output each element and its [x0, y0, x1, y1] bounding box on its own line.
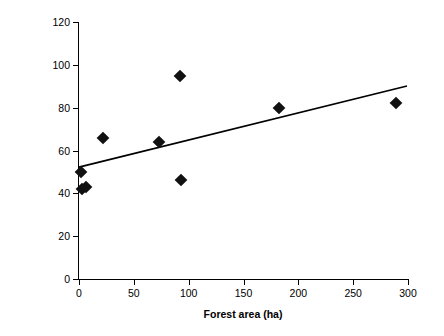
y-axis-tick-label: 100 [52, 59, 70, 71]
x-axis-tick [408, 279, 409, 285]
y-axis-tick [73, 22, 79, 23]
x-axis-tick [298, 279, 299, 285]
x-axis-tick-label: 0 [76, 287, 82, 299]
x-axis-tick-label: 100 [180, 287, 198, 299]
y-axis-tick [73, 65, 79, 66]
x-axis-tick-label: 250 [344, 287, 362, 299]
y-axis-tick [73, 193, 79, 194]
y-axis-tick [73, 236, 79, 237]
scatter-chart: Species richness of woody plant feeding … [0, 0, 444, 336]
x-axis-tick [79, 279, 80, 285]
y-axis-tick-label: 40 [58, 187, 70, 199]
x-axis-tick-label: 50 [128, 287, 140, 299]
x-axis-title: Forest area (ha) [78, 308, 408, 320]
trend-line [79, 22, 408, 279]
x-axis-tick-label: 300 [399, 287, 417, 299]
y-axis-tick [73, 108, 79, 109]
x-axis-tick [353, 279, 354, 285]
x-axis-tick-label: 200 [290, 287, 308, 299]
plot-area: 020406080100120050100150200250300 [78, 22, 408, 280]
x-axis-tick [244, 279, 245, 285]
y-axis-tick-label: 80 [58, 102, 70, 114]
x-axis-tick-label: 150 [235, 287, 253, 299]
x-axis-title-text: Forest area (ha) [204, 308, 283, 320]
x-axis-tick [134, 279, 135, 285]
y-axis-tick-label: 0 [64, 273, 70, 285]
y-axis-tick-label: 120 [52, 16, 70, 28]
y-axis-tick-label: 60 [58, 145, 70, 157]
x-axis-tick [189, 279, 190, 285]
y-axis-tick [73, 151, 79, 152]
y-axis-tick-label: 20 [58, 230, 70, 242]
